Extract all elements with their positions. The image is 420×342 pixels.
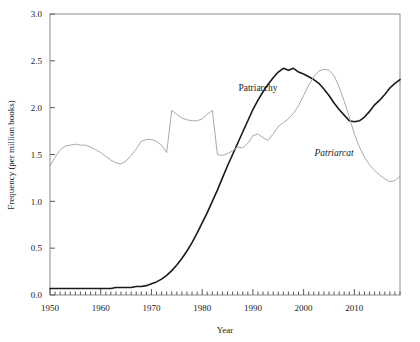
x-tick-label: 1950 [41,303,60,313]
frequency-line-chart: 0.00.51.01.52.02.53.0 195019601970198019… [0,0,420,342]
y-tick-label: 1.0 [31,197,43,207]
x-tick-label: 2010 [345,303,364,313]
chart-figure: 0.00.51.01.52.02.53.0 195019601970198019… [0,0,420,342]
y-tick-label: 0.0 [31,290,43,300]
x-tick-label: 1980 [193,303,212,313]
series-label-patriarchy: Patriarchy [238,83,277,93]
x-tick-label: 1990 [244,303,263,313]
y-tick-label: 2.5 [31,56,43,66]
y-tick-label: 3.0 [31,9,43,19]
y-tick-label: 1.5 [31,150,43,160]
y-axis-title: Frequency (per million books) [6,100,16,210]
chart-background [0,0,420,342]
series-label-patriarcat: Patriarcat [313,148,354,158]
x-axis-title: Year [217,325,234,335]
y-tick-label: 2.0 [31,103,43,113]
x-tick-label: 1960 [92,303,111,313]
y-tick-label: 0.5 [31,243,43,253]
x-tick-label: 2000 [295,303,314,313]
x-tick-label: 1970 [142,303,161,313]
